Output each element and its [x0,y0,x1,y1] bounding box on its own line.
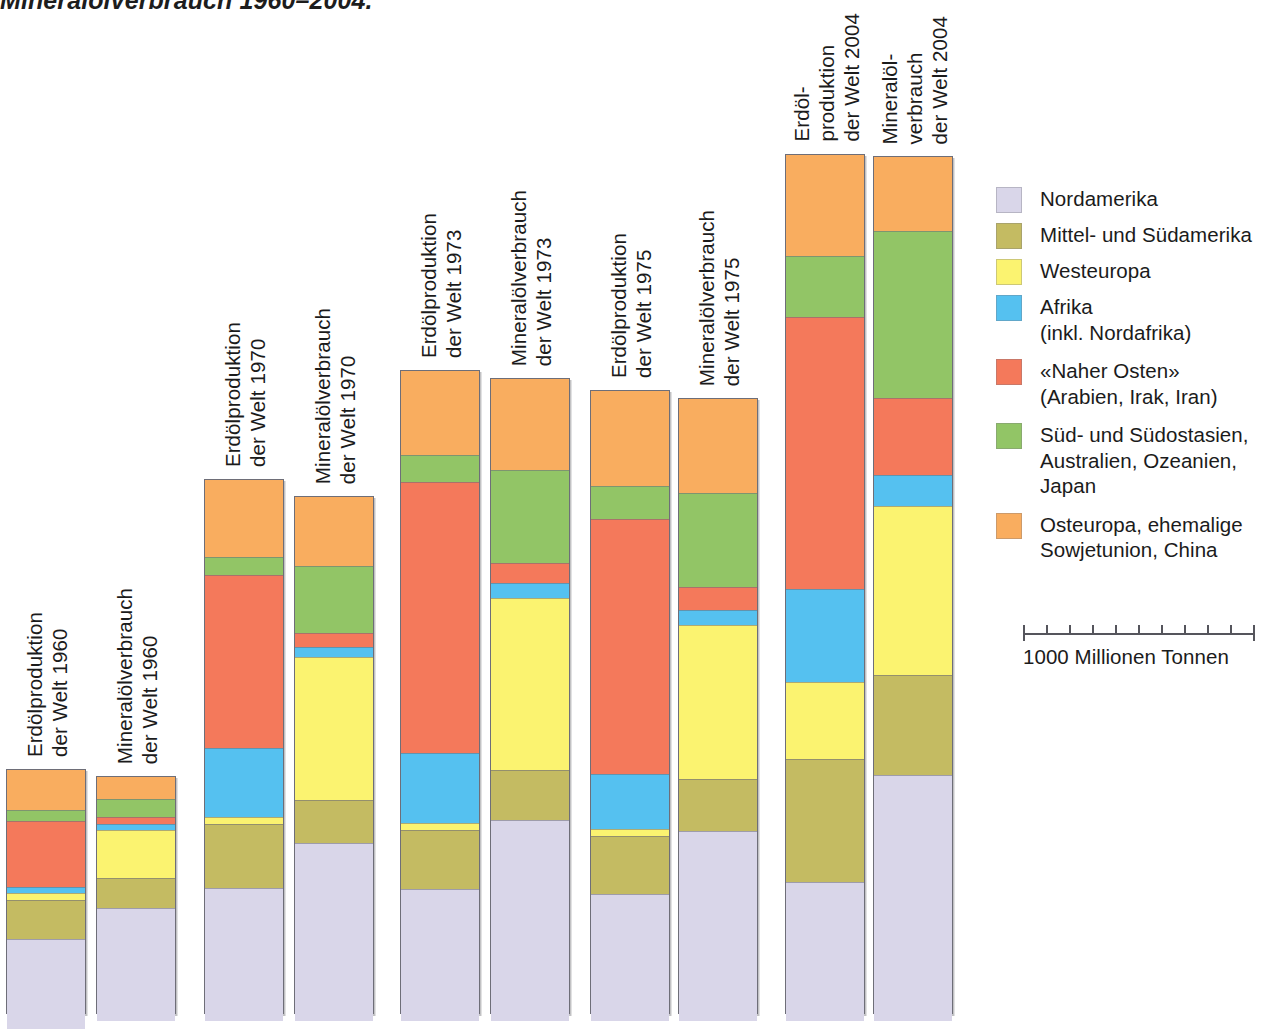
stacked-bar[interactable] [294,496,374,1014]
bar-segment [491,470,569,563]
bar-segment [591,894,669,1021]
bar-segment [679,493,757,587]
bar-segment [205,817,283,824]
legend-label: Osteuropa, ehemalige Sowjetunion, China [1040,512,1243,563]
legend-label: Westeuropa [1040,258,1151,284]
bar-segment [295,497,373,566]
bar-segment [97,830,175,878]
legend-swatch-icon [996,513,1022,539]
bar-segment [874,231,952,399]
bar-segment [295,657,373,800]
bar-segment [97,878,175,908]
bar-segment [786,589,864,682]
legend-item-naher-osten[interactable]: «Naher Osten» (Arabien, Irak, Iran) [996,358,1271,409]
scale-tick [1230,625,1232,634]
bar-segment [491,379,569,470]
bar-segment [97,799,175,817]
bar-segment [7,900,85,939]
legend-item-suedasien[interactable]: Süd- und Südostasien, Australien, Ozeani… [996,422,1271,499]
bar-segment [491,770,569,820]
bar-segment [7,939,85,1029]
bar-segment [591,391,669,486]
legend-swatch-icon [996,223,1022,249]
bar-segment [7,821,85,887]
legend-item-nordamerika[interactable]: Nordamerika [996,186,1271,213]
scale-tick [1253,625,1255,641]
bar-segment [97,908,175,1021]
bar-label: Erdöl- produktion der Welt 2004 [789,13,864,142]
bar-segment [679,399,757,493]
bar-label: Erdölproduktion der Welt 1960 [22,612,72,757]
stacked-bar[interactable] [96,776,176,1014]
scale-tick [1023,625,1025,641]
stacked-bar[interactable] [6,769,86,1014]
bar-segment [205,557,283,575]
bar-segment [295,633,373,647]
legend-label: Nordamerika [1040,186,1158,212]
bar-segment [295,566,373,633]
bar-label: Mineralölverbrauch der Welt 1973 [506,190,556,366]
bar-segment [591,519,669,774]
figure-root: Mineralölverbrauch 1960–2004. Erdölprodu… [0,0,1271,1030]
bar-segment [874,675,952,775]
bar-label: Mineralöl- verbrauch der Welt 2004 [877,16,952,145]
legend-label: Süd- und Südostasien, Australien, Ozeani… [1040,422,1248,499]
legend-item-mittel-suedamerika[interactable]: Mittel- und Südamerika [996,222,1271,249]
legend-label: «Naher Osten» (Arabien, Irak, Iran) [1040,358,1218,409]
bar-segment [97,777,175,799]
stacked-bar-chart: Erdölproduktion der Welt 1960Mineralölve… [0,0,990,1030]
bar-segment [491,563,569,583]
stacked-bar[interactable] [400,370,480,1014]
bar-segment [679,831,757,1021]
legend-label: Mittel- und Südamerika [1040,222,1252,248]
scale-tick [1069,625,1071,634]
bar-segment [679,625,757,779]
stacked-bar[interactable] [204,479,284,1014]
bar-segment [591,774,669,829]
legend-item-westeuropa[interactable]: Westeuropa [996,258,1271,285]
scale-tick [1092,625,1094,634]
scale-tick [1161,625,1163,634]
bar-segment [491,820,569,1021]
bar-segment [786,759,864,882]
stacked-bar[interactable] [678,398,758,1014]
bar-label: Erdölproduktion der Welt 1973 [416,213,466,358]
bar-segment [401,823,479,830]
bar-segment [874,398,952,475]
bar-segment [786,317,864,589]
legend-swatch-icon [996,359,1022,385]
bar-segment [401,830,479,889]
bar-segment [591,836,669,894]
bar-segment [874,157,952,231]
bar-segment [7,770,85,810]
bar-segment [679,610,757,625]
legend-item-osteuropa[interactable]: Osteuropa, ehemalige Sowjetunion, China [996,512,1271,563]
stacked-bar[interactable] [873,156,953,1014]
scale-tick [1138,625,1140,634]
bar-segment [205,824,283,888]
bar-segment [679,779,757,831]
legend-item-afrika[interactable]: Afrika (inkl. Nordafrika) [996,294,1271,345]
bar-segment [874,475,952,506]
stacked-bar[interactable] [490,378,570,1014]
bar-label: Mineralölverbrauch der Welt 1975 [694,210,744,386]
legend-swatch-icon [996,187,1022,213]
scale-bar: 1000 Millionen Tonnen [1023,625,1253,669]
scale-tick [1115,625,1117,634]
stacked-bar[interactable] [785,154,865,1014]
legend-swatch-icon [996,259,1022,285]
bar-label: Mineralölverbrauch der Welt 1960 [112,588,162,764]
bar-segment [786,155,864,256]
stacked-bar[interactable] [590,390,670,1014]
legend-label: Afrika (inkl. Nordafrika) [1040,294,1191,345]
bar-label: Erdölproduktion der Welt 1975 [606,233,656,378]
bar-segment [205,888,283,1021]
bar-segment [7,810,85,821]
bar-segment [7,893,85,900]
bar-label: Erdölproduktion der Welt 1970 [220,322,270,467]
bar-segment [205,480,283,557]
bar-segment [295,647,373,657]
bar-segment [401,455,479,482]
bar-segment [97,817,175,824]
bar-segment [205,748,283,817]
